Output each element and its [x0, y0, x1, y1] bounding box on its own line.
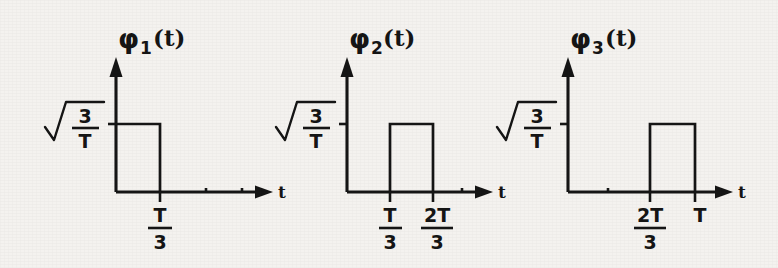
panel-2-x-axis-arrowhead	[475, 186, 493, 199]
panel-1-x-axis-label: t	[278, 182, 286, 202]
panel-2-y-axis-arrowhead	[341, 57, 354, 77]
panel-2-y-axis-label: 3 T	[276, 102, 335, 152]
panel-3-xtick-1: T	[694, 192, 707, 226]
panel-3-xtick-1-label: T	[694, 204, 707, 226]
panel-1-y-axis-arrowhead	[110, 57, 123, 77]
panel-1-title-phi: φ	[118, 23, 139, 54]
panel-2-pulse	[390, 124, 433, 192]
figure-container: φ 1 (t) t 3 T	[0, 0, 778, 268]
panel-2-radical-icon	[276, 102, 335, 140]
panel-3-title: φ 3 (t)	[570, 23, 637, 58]
panel-1-pulse	[116, 124, 160, 192]
basis-functions-figure: φ 1 (t) t 3 T	[0, 0, 778, 268]
panel-1-xtick-0-denominator: 3	[153, 231, 166, 253]
panel-2-xtick-1: 2T 3	[421, 192, 453, 253]
panel-2-xtick-1-denominator: 3	[430, 231, 443, 253]
panel-3-xtick-0: 2T 3	[634, 192, 666, 253]
panel-3-xtick-0-denominator: 3	[643, 231, 656, 253]
panel-1-title-arg: (t)	[153, 24, 185, 51]
panel-1-xtick-0-numerator: T	[154, 204, 167, 226]
panel-1-y-axis-label: 3 T	[45, 102, 104, 152]
panel-1-ylabel-denominator: T	[79, 130, 92, 152]
panel-2-xtick-0: T 3	[379, 192, 402, 253]
panel-2-xtick-0-numerator: T	[384, 204, 397, 226]
panel-1: φ 1 (t) t 3 T	[45, 23, 286, 253]
panel-1-title: φ 1 (t)	[118, 23, 185, 58]
panel-2-ylabel-numerator: 3	[309, 105, 322, 127]
panel-2-title-subscript: 2	[371, 38, 383, 58]
panel-2-xtick-0-denominator: 3	[383, 231, 396, 253]
panel-2-title: φ 2 (t)	[349, 23, 415, 58]
panel-3-pulse	[650, 124, 695, 192]
panel-2-xtick-1-numerator: 2T	[424, 204, 450, 226]
panel-3-title-arg: (t)	[605, 24, 637, 51]
panel-1-radical-icon	[45, 102, 104, 140]
panel-1-title-subscript: 1	[140, 38, 152, 58]
panel-3-ylabel-numerator: 3	[530, 105, 543, 127]
panel-3: φ 3 (t) t 3 T	[497, 23, 746, 253]
panel-2-x-axis-label: t	[498, 182, 506, 202]
panel-3-x-axis-arrowhead	[715, 186, 733, 199]
panel-3-title-subscript: 3	[592, 38, 604, 58]
panel-3-y-axis-label: 3 T	[497, 102, 556, 152]
panel-3-radical-icon	[497, 102, 556, 140]
panel-3-y-axis-arrowhead	[562, 57, 575, 77]
panel-2: φ 2 (t) t 3 T	[276, 23, 506, 253]
panel-3-ylabel-denominator: T	[531, 130, 544, 152]
panel-1-x-axis-arrowhead	[255, 186, 273, 199]
panel-1-xtick-0: T 3	[148, 192, 172, 253]
panel-1-ylabel-numerator: 3	[78, 105, 91, 127]
panel-2-ylabel-denominator: T	[310, 130, 323, 152]
panel-3-x-axis-label: t	[738, 182, 746, 202]
panel-2-title-arg: (t)	[383, 24, 415, 51]
panel-3-xtick-0-numerator: 2T	[637, 204, 663, 226]
panel-3-title-phi: φ	[570, 23, 591, 54]
panel-2-title-phi: φ	[349, 23, 370, 54]
